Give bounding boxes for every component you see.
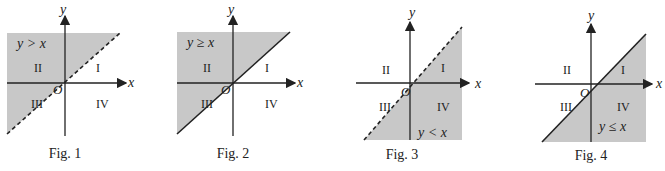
figure-caption: Fig. 4 — [551, 148, 631, 164]
quadrant-III-label: III — [560, 100, 572, 114]
y-axis-label: y — [58, 2, 67, 17]
quadrant-IV-label: IV — [96, 97, 109, 111]
origin-label: O — [221, 82, 231, 97]
figure-caption: Fig. 1 — [25, 146, 105, 162]
inequality-label: y < x — [416, 125, 448, 140]
origin-label: O — [580, 85, 590, 100]
quadrant-I-label: I — [96, 61, 100, 75]
quadrant-I-label: I — [265, 61, 269, 75]
quadrant-IV-label: IV — [617, 100, 630, 114]
quadrant-IV-label: IV — [437, 100, 450, 114]
figure-4-diagram: y x O y ≤ x II I III IV — [500, 0, 665, 171]
quadrant-III-label: III — [379, 100, 391, 114]
figure-3-diagram: y x O y < x II I III IV — [335, 0, 500, 171]
y-axis-label: y — [226, 2, 235, 17]
x-axis-label: x — [474, 76, 482, 91]
figure-4: y x O y ≤ x II I III IV Fig. 4 — [500, 0, 665, 171]
x-axis-label: x — [655, 76, 663, 91]
quadrant-I-label: I — [441, 61, 445, 75]
quadrant-II-label: II — [382, 63, 390, 77]
figure-1: y x O y > x II I III IV Fig. 1 — [0, 0, 170, 171]
x-axis-label: x — [296, 75, 304, 90]
figure-2: y x O y ≥ x II I III IV Fig. 2 — [170, 0, 335, 171]
y-axis-label: y — [586, 8, 595, 23]
y-axis-label: y — [407, 5, 416, 20]
figure-caption: Fig. 3 — [362, 147, 442, 163]
inequality-label: y ≤ x — [597, 119, 627, 134]
quadrant-I-label: I — [621, 63, 625, 77]
figure-3: y x O y < x II I III IV Fig. 3 — [335, 0, 500, 171]
quadrant-IV-label: IV — [265, 97, 278, 111]
x-axis-label: x — [127, 75, 135, 90]
quadrant-II-label: II — [34, 61, 42, 75]
origin-label: O — [401, 84, 411, 99]
inequality-label: y ≥ x — [185, 35, 215, 50]
figure-caption: Fig. 2 — [193, 146, 273, 162]
origin-label: O — [53, 82, 63, 97]
quadrant-III-label: III — [31, 97, 43, 111]
quadrant-II-label: II — [563, 63, 571, 77]
quadrant-III-label: III — [201, 97, 213, 111]
inequality-label: y > x — [15, 36, 47, 51]
quadrant-II-label: II — [203, 61, 211, 75]
